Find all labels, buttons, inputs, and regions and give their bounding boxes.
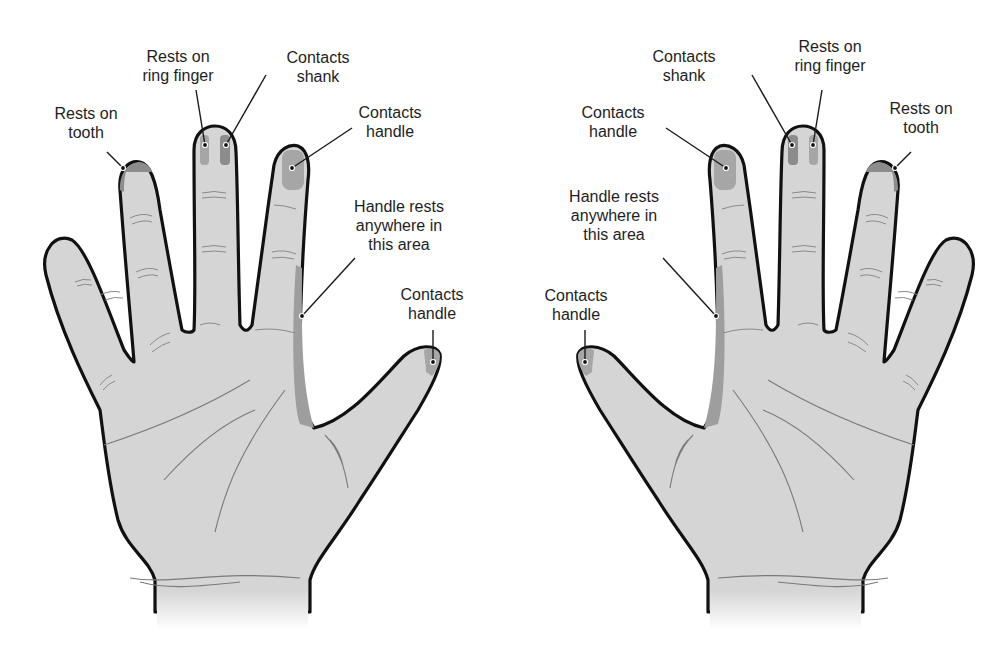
left-label-contacts-shank: Contacts shank (286, 48, 349, 86)
left-label-handle-rests-area: Handle rests anywhere in this area (354, 197, 444, 254)
left-label-rests-on-tooth: Rests on tooth (54, 104, 117, 142)
right-label-rests-on-ring-finger: Rests on ring finger (794, 37, 865, 75)
left-hand (45, 75, 441, 630)
right-handle-rest-area (704, 265, 725, 428)
right-hand (578, 75, 974, 630)
right-label-handle-rests-area: Handle rests anywhere in this area (569, 187, 659, 244)
right-label-contacts-shank: Contacts shank (652, 47, 715, 85)
left-label-contacts-handle-thumb: Contacts handle (400, 285, 463, 323)
right-label-contacts-handle-thumb: Contacts handle (544, 286, 607, 324)
right-label-contacts-handle-index: Contacts handle (581, 103, 644, 141)
left-label-rests-on-ring-finger: Rests on ring finger (142, 47, 213, 85)
left-label-contacts-handle-index: Contacts handle (358, 103, 421, 141)
left-handle-rest-area (293, 265, 314, 428)
hand-diagram (0, 0, 1006, 652)
right-label-rests-on-tooth: Rests on tooth (889, 99, 952, 137)
